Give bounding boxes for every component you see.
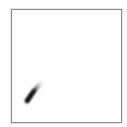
drawing-canvas[interactable] <box>11 9 122 123</box>
brush-stroke <box>12 10 121 122</box>
